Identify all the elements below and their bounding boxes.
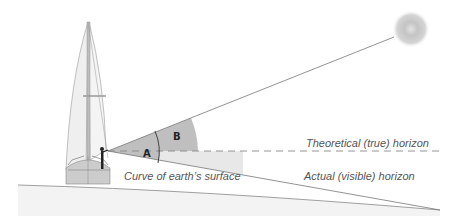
celestial-navigation-diagram — [0, 0, 457, 223]
theoretical-horizon-label: Theoretical (true) horizon — [306, 137, 429, 149]
earth-surface-fill — [18, 185, 440, 216]
angle-a-label: A — [143, 148, 151, 159]
sun-icon — [392, 10, 430, 48]
actual-horizon-label: Actual (visible) horizon — [304, 170, 415, 182]
sight-line-to-sun — [108, 37, 394, 151]
altitude-sector-b — [108, 118, 198, 151]
earth-surface-label: Curve of earth’s surface — [124, 170, 241, 182]
angle-b-label: B — [173, 131, 181, 142]
